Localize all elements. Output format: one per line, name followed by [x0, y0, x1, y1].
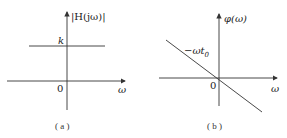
panel-a-k-label: k: [58, 35, 64, 46]
panel-a-origin-label: 0: [57, 83, 63, 94]
panel-b-origin-label: 0: [210, 80, 216, 91]
panel-a-magnitude: |H(jω)| k 0 ω ( a ): [7, 11, 126, 131]
panel-b-x-label: ω: [271, 83, 279, 94]
panel-a-caption: ( a ): [55, 121, 70, 131]
figure-canvas: |H(jω)| k 0 ω ( a ) φ(ω) −ωt0 0 ω ( b ): [0, 0, 287, 138]
panel-a-y-label: |H(jω)|: [71, 11, 106, 23]
panel-b-y-label: φ(ω): [224, 13, 247, 24]
panel-b-phase: φ(ω) −ωt0 0 ω ( b ): [159, 13, 279, 131]
panel-a-x-label: ω: [118, 84, 126, 95]
panel-b-phase-line: [166, 40, 262, 112]
panel-b-caption: ( b ): [207, 121, 222, 131]
